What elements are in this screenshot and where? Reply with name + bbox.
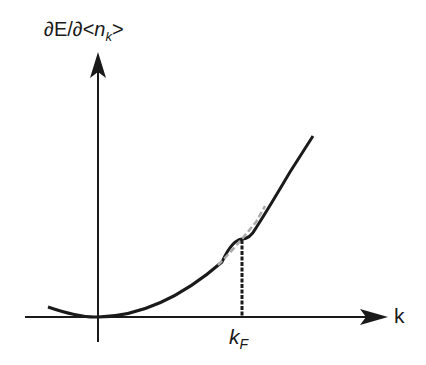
y-axis — [90, 52, 106, 342]
dispersion-curve — [48, 136, 313, 317]
x-axis-label: k — [394, 304, 405, 328]
smooth-reference-dashed-curve — [218, 206, 265, 265]
fermi-momentum-label: kF — [229, 325, 248, 352]
y-axis-label: ∂E/∂<nk> — [44, 18, 124, 44]
diagram-canvas — [0, 0, 426, 365]
